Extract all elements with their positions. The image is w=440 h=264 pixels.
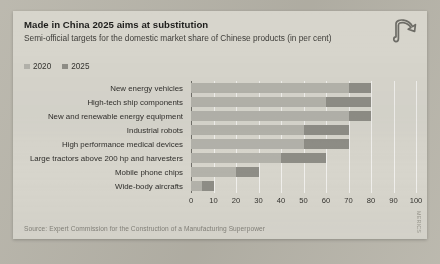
category-label-row: New energy vehicles bbox=[24, 81, 187, 95]
value-axis-tick: 20 bbox=[232, 196, 240, 205]
bar-2020 bbox=[191, 83, 349, 93]
bars-area bbox=[191, 81, 416, 193]
category-label: New and renewable energy equipment bbox=[48, 112, 183, 121]
bar-row bbox=[191, 137, 416, 151]
bar-row bbox=[191, 179, 416, 193]
category-label-row: High-tech ship components bbox=[24, 95, 187, 109]
value-axis-tick: 60 bbox=[322, 196, 330, 205]
bar-row bbox=[191, 95, 416, 109]
chart-source: Source: Expert Commission for the Constr… bbox=[24, 225, 265, 232]
chart-header: Made in China 2025 aims at substitution … bbox=[24, 19, 381, 44]
bar-2020 bbox=[191, 153, 281, 163]
legend-label-2020: 2020 bbox=[33, 62, 51, 71]
bar-2020 bbox=[191, 97, 326, 107]
category-label: High performance medical devices bbox=[62, 140, 183, 149]
merics-ribbon-logo-icon bbox=[392, 19, 418, 43]
value-axis-tick: 80 bbox=[367, 196, 375, 205]
legend-item-2020: 2020 bbox=[24, 62, 51, 71]
category-label-row: Mobile phone chips bbox=[24, 165, 187, 179]
chart-title: Made in China 2025 aims at substitution bbox=[24, 19, 381, 31]
category-label: High-tech ship components bbox=[87, 98, 183, 107]
bar-2020 bbox=[191, 167, 236, 177]
category-label: Large tractors above 200 hp and harveste… bbox=[30, 154, 183, 163]
bar-row bbox=[191, 151, 416, 165]
category-label-row: New and renewable energy equipment bbox=[24, 109, 187, 123]
gridline bbox=[416, 81, 417, 193]
value-axis-tick: 100 bbox=[410, 196, 423, 205]
legend-label-2025: 2025 bbox=[71, 62, 89, 71]
value-axis-tick: 10 bbox=[209, 196, 217, 205]
chart-plot-area: New energy vehiclesHigh-tech ship compon… bbox=[24, 81, 416, 211]
value-axis-ticks: 0102030405060708090100 bbox=[191, 193, 416, 209]
category-label-row: Wide-body aircrafts bbox=[24, 179, 187, 193]
bar-2020 bbox=[191, 139, 304, 149]
value-axis-tick: 40 bbox=[277, 196, 285, 205]
category-label: Mobile phone chips bbox=[115, 168, 183, 177]
category-label-row: Industrial robots bbox=[24, 123, 187, 137]
value-axis-tick: 70 bbox=[344, 196, 352, 205]
chart-subtitle: Semi-official targets for the domestic m… bbox=[24, 33, 381, 44]
category-label-row: High performance medical devices bbox=[24, 137, 187, 151]
chart-card: Made in China 2025 aims at substitution … bbox=[13, 11, 427, 239]
category-label: Industrial robots bbox=[127, 126, 183, 135]
bar-2020 bbox=[191, 181, 202, 191]
category-label-row: Large tractors above 200 hp and harveste… bbox=[24, 151, 187, 165]
value-axis-tick: 50 bbox=[299, 196, 307, 205]
value-axis-tick: 0 bbox=[189, 196, 193, 205]
bar-2020 bbox=[191, 125, 304, 135]
bar-row bbox=[191, 165, 416, 179]
chart-credit: MERICS bbox=[416, 211, 422, 233]
category-axis-labels: New energy vehiclesHigh-tech ship compon… bbox=[24, 81, 187, 193]
bar-2020 bbox=[191, 111, 349, 121]
bar-row bbox=[191, 109, 416, 123]
page-background: Made in China 2025 aims at substitution … bbox=[0, 0, 440, 264]
legend-swatch-2025 bbox=[62, 64, 68, 70]
legend-item-2025: 2025 bbox=[62, 62, 89, 71]
bar-row bbox=[191, 81, 416, 95]
value-axis-tick: 90 bbox=[389, 196, 397, 205]
chart-legend: 2020 2025 bbox=[24, 62, 89, 71]
category-label: New energy vehicles bbox=[110, 84, 183, 93]
category-label: Wide-body aircrafts bbox=[115, 182, 183, 191]
legend-swatch-2020 bbox=[24, 64, 30, 70]
bar-row bbox=[191, 123, 416, 137]
value-axis-tick: 30 bbox=[254, 196, 262, 205]
